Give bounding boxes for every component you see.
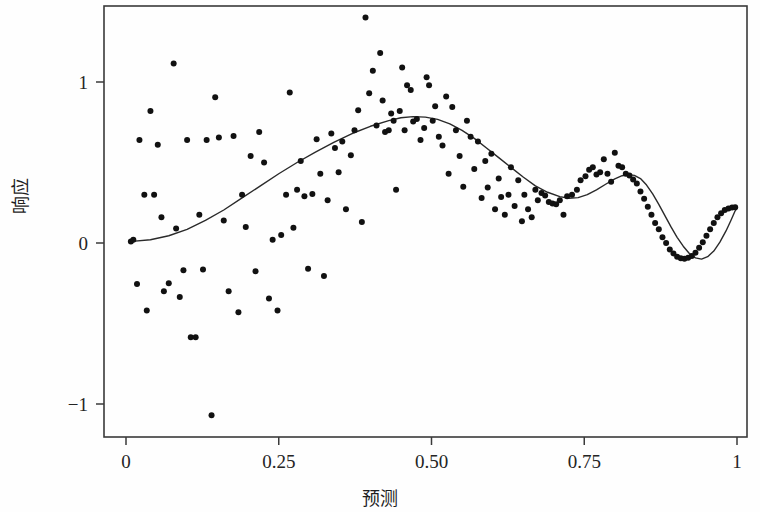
x-axis-title: 预测 [0,484,760,510]
x-tick-label: 1 [732,452,742,471]
x-tick-label: 0 [121,452,131,471]
x-tick-label: 0.50 [415,452,448,471]
x-tick-label: 0.25 [262,452,295,471]
chart-figure: 00.250.500.751 10−1 预测 响应 [0,0,760,512]
x-tick-label: 0.75 [568,452,601,471]
y-axis-title-text: 响应 [6,178,32,214]
y-tick-label: 0 [79,234,89,253]
y-axis-title: 响应 [6,160,32,196]
y-tick-label: −1 [68,395,88,414]
y-tick-label: 1 [79,73,89,92]
x-axis-title-text: 预测 [362,489,398,509]
figure-background [0,0,760,512]
scatter-plot-canvas [0,0,760,512]
